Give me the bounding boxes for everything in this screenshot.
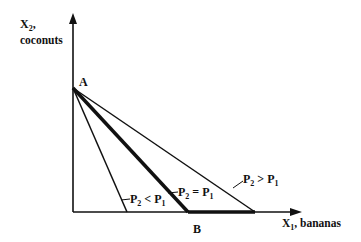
label-shallow: P2 > P1 bbox=[243, 173, 279, 188]
p-right: P bbox=[267, 172, 274, 186]
label-steep: P2 < P1 bbox=[130, 193, 166, 208]
p-right: P bbox=[202, 185, 209, 199]
x-axis-arrow-icon bbox=[290, 208, 302, 216]
p-right: P bbox=[154, 192, 161, 206]
pointer-steep bbox=[121, 199, 130, 200]
p-right-sub: 1 bbox=[210, 192, 214, 201]
pointer-shallow bbox=[233, 181, 243, 188]
p-right-sub: 1 bbox=[162, 199, 166, 208]
operator: > bbox=[254, 172, 267, 186]
y-axis-suffix: , bbox=[33, 17, 36, 31]
y-axis-word: coconuts bbox=[20, 35, 63, 47]
point-b-label: B bbox=[193, 223, 201, 235]
operator: = bbox=[189, 185, 202, 199]
x-axis-label: X1, bananas bbox=[282, 218, 341, 232]
y-axis-arrow-icon bbox=[69, 13, 77, 24]
x-axis-suffix: , bananas bbox=[294, 217, 341, 229]
y-axis-label: X2, bbox=[20, 18, 36, 33]
point-a-label: A bbox=[79, 76, 88, 88]
label-bold: P2 = P1 bbox=[178, 186, 214, 201]
y-axis-symbol: X bbox=[20, 17, 29, 31]
operator: < bbox=[141, 192, 154, 206]
p-right-sub: 1 bbox=[275, 179, 279, 188]
